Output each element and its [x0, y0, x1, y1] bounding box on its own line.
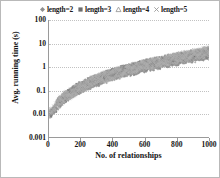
- legend-label-length-2: length=2: [47, 5, 73, 14]
- x-tick-label: 200: [74, 140, 85, 149]
- cross-marker-icon: [153, 5, 160, 14]
- square-marker-icon: [77, 5, 84, 14]
- y-tick-label: 0.1: [2, 87, 46, 95]
- scatter-points: [49, 20, 209, 137]
- chart-legend: length=2 length=3 length=4 length=5: [39, 3, 219, 16]
- x-tick-label: 400: [107, 140, 118, 149]
- plot-area: [48, 20, 209, 138]
- y-tick-label: 0.001: [2, 134, 46, 142]
- chart-figure: length=2 length=3 length=4 length=5 0.00…: [0, 0, 220, 178]
- legend-label-length-3: length=3: [85, 5, 111, 14]
- y-tick-label: 0.01: [2, 110, 46, 118]
- series-length-4: [49, 46, 209, 115]
- legend-item-length-3: length=3: [77, 5, 111, 14]
- legend-label-length-4: length=4: [123, 5, 149, 14]
- y-tick-label: 1: [2, 63, 46, 71]
- series-length-5: [49, 45, 209, 115]
- triangle-marker-icon: [115, 5, 122, 14]
- y-axis-tick-labels: 0.0010.010.1110100: [1, 1, 46, 178]
- x-tick-label: 800: [171, 140, 182, 149]
- x-tick-label: 1000: [201, 140, 216, 149]
- legend-label-length-5: length=5: [161, 5, 187, 14]
- x-tick-label: 0: [46, 140, 50, 149]
- y-tick-label: 100: [2, 16, 46, 24]
- legend-item-length-5: length=5: [153, 5, 187, 14]
- x-tick-label: 600: [139, 140, 150, 149]
- y-tick-label: 10: [2, 40, 46, 48]
- y-axis-title: Avg. running time (s): [11, 18, 20, 118]
- x-axis-tick-labels: 02004006008001000: [48, 140, 209, 150]
- x-axis-title: No. of relationships: [48, 151, 209, 160]
- legend-item-length-4: length=4: [115, 5, 149, 14]
